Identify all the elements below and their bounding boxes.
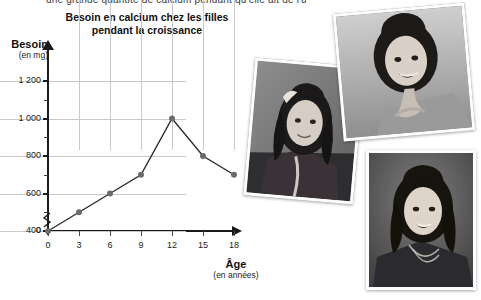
x-axis-tick [172, 231, 173, 236]
x-axis-tick [79, 231, 80, 236]
y-axis-tick-labels: 04006008001 0001 200 [0, 0, 41, 300]
y-axis-tick [43, 80, 49, 82]
y-axis-break-icon [41, 212, 55, 228]
chart-title: Besoin en calcium chez les filles pendan… [52, 11, 242, 37]
y-axis-arrowhead-icon [42, 40, 54, 50]
young-girl-smiling-photo [333, 2, 476, 141]
cut-off-body-text: une grande quantité de calcium pendant q… [46, 0, 306, 6]
data-point-marker [200, 153, 206, 159]
y-axis-minor-tick [44, 137, 48, 138]
page-root: une grande quantité de calcium pendant q… [0, 0, 481, 300]
x-axis-tick [110, 231, 111, 236]
x-axis-caption: Âge (en années) [196, 258, 276, 281]
y-axis-tick [43, 118, 49, 120]
gridline-vertical [79, 0, 80, 150]
x-axis-tick [141, 231, 142, 236]
teen-girl-portrait-photo [366, 150, 476, 290]
x-axis-label: Âge [196, 258, 276, 270]
y-axis-minor-tick [44, 100, 48, 101]
x-axis-tick-label: 9 [130, 240, 152, 250]
gridline-vertical [234, 0, 235, 150]
y-axis-tick-label: 600 [1, 188, 41, 198]
y-axis-tick [43, 155, 49, 157]
x-axis-tick [48, 231, 49, 236]
gridline-vertical [110, 0, 111, 150]
gridline-vertical [203, 0, 204, 150]
y-axis-tick [43, 193, 49, 195]
chart-title-line-1: Besoin en calcium chez les filles [52, 11, 242, 24]
x-axis-tick [203, 231, 204, 236]
y-axis-line [47, 47, 49, 235]
x-axis-tick-label: 0 [37, 240, 59, 250]
x-axis-tick-label: 6 [99, 240, 121, 250]
x-axis-tick-label: 12 [161, 240, 183, 250]
x-axis-tick-label: 3 [68, 240, 90, 250]
chart-title-line-2: pendant la croissance [52, 24, 242, 37]
data-point-marker [76, 209, 82, 215]
y-axis-tick-label: 1 200 [1, 75, 41, 85]
data-point-marker [231, 172, 237, 178]
x-axis-tick-label: 18 [223, 240, 245, 250]
y-axis-tick-label: 400 [1, 225, 41, 235]
y-axis-minor-tick [44, 175, 48, 176]
gridline-vertical [172, 0, 173, 150]
data-point-marker [138, 172, 144, 178]
x-axis-tick [234, 231, 235, 236]
y-axis-tick-label: 1 000 [1, 113, 41, 123]
x-axis-tick-label: 15 [192, 240, 214, 250]
gridline-vertical [141, 0, 142, 150]
x-axis-unit: (en années) [196, 270, 276, 281]
y-axis-tick-label: 800 [1, 150, 41, 160]
